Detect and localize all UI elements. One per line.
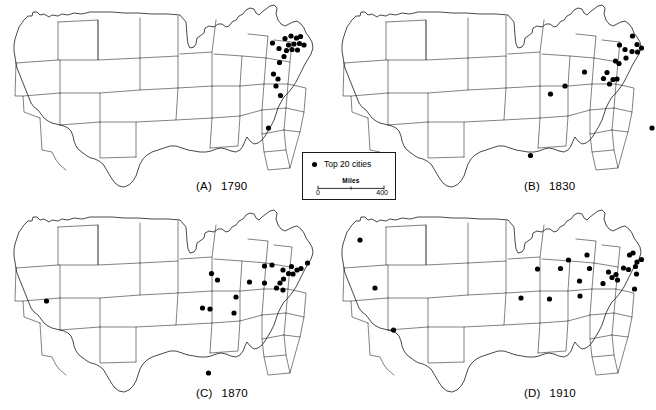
panel-letter-d: (D) <box>524 387 541 399</box>
filled-circle-icon <box>312 162 317 167</box>
panel-year-a: 1790 <box>221 180 247 192</box>
map-panel-1790 <box>0 0 328 205</box>
panel-year-b: 1830 <box>549 180 575 192</box>
panel-letter-b: (B) <box>524 180 540 192</box>
scale-min-label: 0 <box>316 189 320 196</box>
panel-label-b: (B)1830 <box>524 180 575 192</box>
panel-letter-c: (C) <box>196 387 213 399</box>
panel-letter-a: (A) <box>196 180 212 192</box>
scale-bar: Miles 0 400 <box>317 177 385 197</box>
panel-label-a: (A)1790 <box>196 180 247 192</box>
panel-year-d: 1910 <box>550 387 576 399</box>
legend-label: Top 20 cities <box>324 159 371 169</box>
us-outline <box>14 5 313 187</box>
us-outline <box>14 210 313 392</box>
panel-year-c: 1870 <box>222 387 248 399</box>
map-panel-1870 <box>0 205 328 410</box>
us-map-1910 <box>328 205 656 410</box>
map-legend: Top 20 cities Miles 0 400 <box>302 152 396 200</box>
panel-label-d: (D)1910 <box>524 387 576 399</box>
panel-label-c: (C)1870 <box>196 387 248 399</box>
scale-bar-title: Miles <box>317 177 385 184</box>
us-outline <box>342 210 641 392</box>
us-map-1790 <box>0 0 328 205</box>
legend-entry-top20: Top 20 cities <box>312 159 371 169</box>
scale-bar-graphic <box>317 185 385 190</box>
us-map-1870 <box>0 205 328 410</box>
map-panel-1910 <box>328 205 656 410</box>
scale-max-label: 400 <box>376 189 388 196</box>
figure-top20-cities: (A)1790 (B)1830 (C)1870 (D)1910 Top 20 c… <box>0 0 656 410</box>
